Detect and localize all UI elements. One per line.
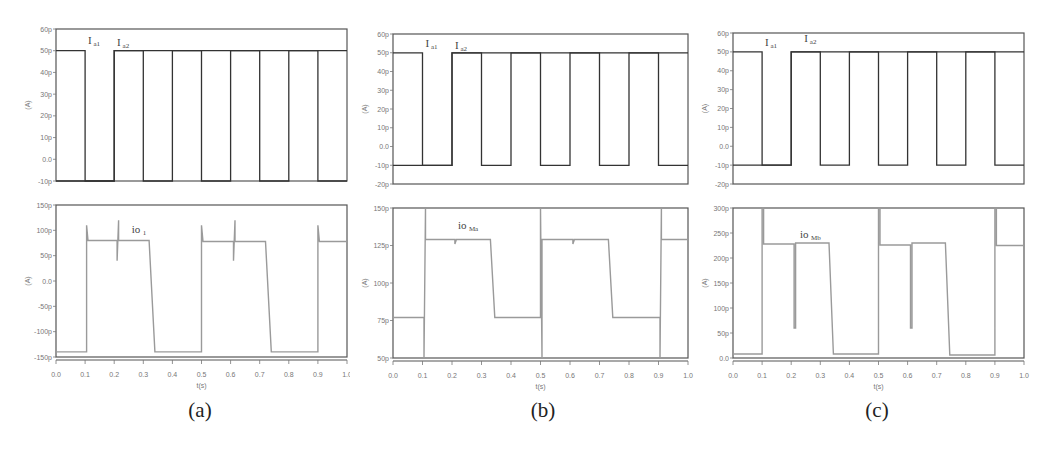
series-label-Ia1: I — [765, 36, 769, 48]
svg-text:a2: a2 — [123, 42, 130, 50]
y-tick-label: 50p — [40, 252, 52, 260]
series-label-ioMb: io — [800, 228, 809, 240]
y-tick-label: 200p — [713, 255, 729, 263]
x-tick-label: 0.8 — [284, 371, 294, 378]
panel-b: 60p50p40p30p20p10p0.0-10p-20p(A)Ia1Ia215… — [345, 0, 695, 400]
y-tick-label: 40p — [377, 68, 389, 76]
x-tick-label: 0.6 — [565, 372, 575, 379]
x-tick-label: 0.5 — [536, 372, 546, 379]
x-tick-label: 0.8 — [624, 372, 634, 379]
chart-c: 60p50p40p30p20p10p0.0-10p-20p(A)Ia1Ia230… — [690, 0, 1043, 400]
y-tick-label: -10p — [375, 162, 389, 170]
x-tick-label: 1.0 — [1019, 372, 1029, 379]
y-tick-label: 30p — [717, 86, 729, 94]
x-tick-label: 0.3 — [815, 372, 825, 379]
series-label-Ia1: I — [88, 34, 92, 46]
svg-text:a1: a1 — [431, 43, 438, 51]
svg-text:Ma: Ma — [469, 225, 479, 233]
panel-a: 60p50p40p30p20p10p0.0-10p(A)Ia1Ia2150p10… — [0, 0, 350, 400]
y-tick-label: 0.0 — [379, 143, 389, 150]
x-tick-label: 0.8 — [961, 372, 971, 379]
y-axis-label: (A) — [361, 104, 369, 113]
y-tick-label: 20p — [717, 105, 729, 113]
x-tick-label: 0.2 — [447, 372, 457, 379]
series-Ia1 — [733, 52, 1024, 165]
x-tick-label: 0.1 — [757, 372, 767, 379]
x-axis: 0.00.10.20.30.40.50.60.70.80.91.0t(s) — [51, 360, 350, 390]
y-tick-label: 300p — [713, 205, 729, 213]
y-tick-label: 125p — [373, 242, 389, 250]
series-label-Ia2: I — [117, 36, 121, 48]
x-tick-label: 0.3 — [477, 372, 487, 379]
y-tick-label: 30p — [40, 91, 52, 99]
y-tick-label: 150p — [36, 202, 52, 210]
x-tick-label: 0.7 — [255, 371, 265, 378]
y-axis-label: (A) — [24, 100, 32, 109]
y-tick-label: 60p — [717, 30, 729, 38]
x-tick-label: 0.3 — [138, 371, 148, 378]
chart-b: 60p50p40p30p20p10p0.0-10p-20p(A)Ia1Ia215… — [345, 0, 695, 400]
svg-text:a2: a2 — [810, 38, 817, 46]
x-axis-label: t(s) — [873, 383, 883, 391]
y-tick-label: 0.0 — [42, 156, 52, 163]
caption-b: (b) — [513, 398, 573, 423]
x-tick-label: 0.0 — [51, 371, 61, 378]
y-tick-label: 250p — [713, 230, 729, 238]
y-tick-label: 0.0 — [719, 143, 729, 150]
y-tick-label: 10p — [717, 124, 729, 132]
series-ioMa — [393, 208, 688, 358]
svg-text:a1: a1 — [94, 40, 101, 48]
y-tick-label: 50p — [40, 47, 52, 55]
subplot-output-current: 300p250p200p150p100p50p0.0(A)ioMb — [701, 205, 1024, 362]
subplot-gate-currents: 60p50p40p30p20p10p0.0-10p(A)Ia1Ia2 — [24, 26, 347, 186]
series-label-Ia1: I — [425, 37, 429, 49]
series-label-io1: io — [132, 223, 141, 235]
y-tick-label: 150p — [713, 280, 729, 288]
y-tick-label: 30p — [377, 87, 389, 95]
x-tick-label: 0.4 — [845, 372, 855, 379]
y-tick-label: -10p — [715, 162, 729, 170]
y-axis-label: (A) — [24, 276, 32, 285]
x-tick-label: 0.9 — [990, 372, 1000, 379]
y-tick-label: 10p — [377, 124, 389, 132]
x-axis: 0.00.10.20.30.40.50.60.70.80.91.0t(s) — [388, 361, 693, 391]
series-io1 — [56, 220, 347, 352]
x-tick-label: 0.7 — [595, 372, 605, 379]
y-axis-label: (A) — [701, 278, 709, 287]
x-axis-label: t(s) — [196, 382, 206, 390]
y-tick-label: 40p — [717, 67, 729, 75]
panel-c: 60p50p40p30p20p10p0.0-10p-20p(A)Ia1Ia230… — [690, 0, 1043, 400]
y-tick-label: 150p — [373, 205, 389, 213]
caption-c: (c) — [847, 398, 907, 423]
y-tick-label: 50p — [717, 48, 729, 56]
subplot-output-current: 150p125p100p75p50p(A)ioMa — [361, 205, 688, 363]
x-tick-label: 0.1 — [80, 371, 90, 378]
subplot-gate-currents: 60p50p40p30p20p10p0.0-10p-20p(A)Ia1Ia2 — [361, 31, 688, 189]
y-tick-label: -150p — [34, 354, 52, 362]
y-tick-label: -20p — [375, 181, 389, 189]
x-tick-label: 0.6 — [903, 372, 913, 379]
series-ioMb — [733, 208, 1024, 355]
svg-text:a1: a1 — [771, 42, 778, 50]
x-tick-label: 0.2 — [786, 372, 796, 379]
y-tick-label: 40p — [40, 69, 52, 77]
x-tick-label: 0.5 — [874, 372, 884, 379]
x-axis-label: t(s) — [535, 383, 545, 391]
y-tick-label: -10p — [38, 178, 52, 186]
x-axis: 0.00.10.20.30.40.50.60.70.80.91.0t(s) — [728, 361, 1029, 391]
subplot-output-current: 150p100p50p0.0-50p-100p-150p(A)io1 — [24, 202, 347, 362]
y-tick-label: 20p — [40, 112, 52, 120]
y-tick-label: 100p — [36, 227, 52, 235]
x-tick-label: 0.9 — [654, 372, 664, 379]
svg-text:Mb: Mb — [811, 234, 821, 242]
x-tick-label: 0.9 — [313, 371, 323, 378]
y-tick-label: 0.0 — [719, 355, 729, 362]
y-tick-label: 60p — [40, 26, 52, 34]
x-tick-label: 0.2 — [109, 371, 119, 378]
y-tick-label: 10p — [40, 134, 52, 142]
y-axis-label: (A) — [701, 104, 709, 113]
series-label-ioMa: io — [458, 219, 467, 231]
x-tick-label: 0.4 — [506, 372, 516, 379]
caption-a: (a) — [170, 398, 230, 423]
x-tick-label: 0.0 — [388, 372, 398, 379]
